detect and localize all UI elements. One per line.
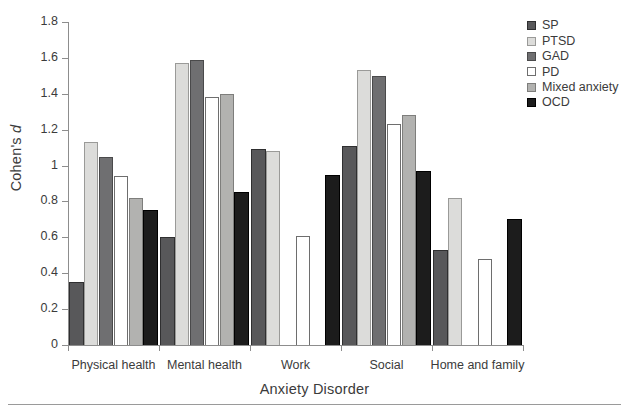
bar	[143, 210, 157, 345]
y-axis-tick	[62, 201, 68, 202]
bar	[160, 237, 174, 345]
bar	[266, 151, 280, 345]
bar	[433, 250, 447, 345]
bar	[99, 157, 113, 345]
y-axis-tick-label-text: 1.6	[22, 50, 58, 64]
legend-item-label: SP	[542, 19, 559, 32]
x-axis-tick	[250, 345, 251, 351]
legend-item-label: PTSD	[542, 35, 575, 48]
y-axis-tick-label-text: 1	[22, 158, 58, 172]
y-axis-tick-label-text: 1.8	[22, 14, 58, 28]
legend-item-label: OCD	[542, 96, 570, 109]
x-axis-tick	[159, 345, 160, 351]
y-axis-tick	[62, 58, 68, 59]
y-axis-tick	[62, 273, 68, 274]
chart-legend: SPPTSDGADPDMixed anxietyOCD	[527, 18, 627, 110]
legend-swatch-icon	[527, 67, 536, 76]
bar-chart-figure: Cohen's d 00.20.40.60.811.21.41.61.8 Phy…	[0, 0, 629, 415]
legend-swatch-icon	[527, 52, 536, 61]
y-axis-tick-label-text: 0.2	[22, 301, 58, 315]
legend-item: SP	[527, 18, 627, 33]
legend-item: GAD	[527, 49, 627, 64]
bar	[234, 192, 248, 345]
x-axis-category-label: Home and family	[431, 358, 525, 372]
y-axis-tick	[62, 166, 68, 167]
bar	[402, 115, 416, 345]
x-axis-category-label: Work	[281, 358, 310, 372]
bar	[190, 60, 204, 345]
x-axis-line	[68, 345, 524, 346]
x-axis-tick	[68, 345, 69, 351]
legend-item: Mixed anxiety	[527, 80, 627, 95]
plot-area: 00.20.40.60.811.21.41.61.8 Physical heal…	[68, 22, 523, 345]
y-axis-tick-label-text: 0.6	[22, 229, 58, 243]
x-axis-tick	[523, 345, 524, 351]
legend-swatch-icon	[527, 83, 536, 92]
legend-item-label: Mixed anxiety	[542, 81, 618, 94]
bar	[69, 282, 83, 345]
x-axis-title: Anxiety Disorder	[0, 381, 629, 397]
y-axis-tick	[62, 130, 68, 131]
legend-item-label: PD	[542, 66, 559, 79]
legend-swatch-icon	[527, 21, 536, 30]
y-axis-tick-label-text: 1.2	[22, 122, 58, 136]
bar	[448, 198, 462, 345]
bar	[205, 97, 219, 345]
footer-divider	[8, 404, 621, 405]
bar	[84, 142, 98, 345]
bar	[114, 176, 128, 345]
bar	[129, 198, 143, 345]
bar	[507, 219, 521, 345]
bar	[220, 94, 234, 345]
x-axis-category-label: Physical health	[71, 358, 155, 372]
legend-item: OCD	[527, 95, 627, 110]
bar	[175, 63, 189, 345]
bar	[342, 146, 356, 345]
legend-item: PTSD	[527, 33, 627, 48]
legend-item-label: GAD	[542, 50, 569, 63]
x-axis-tick	[341, 345, 342, 351]
y-axis-tick-label-text: 0.4	[22, 265, 58, 279]
y-axis-tick-label-text: 0	[22, 337, 58, 351]
y-axis-tick-label-text: 1.4	[22, 86, 58, 100]
bar	[372, 76, 386, 345]
bar	[251, 149, 265, 345]
x-axis-category-label: Social	[369, 358, 403, 372]
legend-swatch-icon	[527, 98, 536, 107]
x-axis-tick	[432, 345, 433, 351]
bar	[357, 70, 371, 345]
legend-item: PD	[527, 64, 627, 79]
y-axis-tick	[62, 237, 68, 238]
y-axis-tick	[62, 309, 68, 310]
bar	[296, 236, 310, 345]
y-axis-tick-label-text: 0.8	[22, 193, 58, 207]
bar	[416, 171, 430, 345]
bar	[478, 259, 492, 345]
x-axis-category-label: Mental health	[167, 358, 242, 372]
legend-swatch-icon	[527, 37, 536, 46]
bar	[387, 124, 401, 345]
bar	[325, 175, 339, 345]
y-axis-tick	[62, 22, 68, 23]
y-axis-tick	[62, 94, 68, 95]
